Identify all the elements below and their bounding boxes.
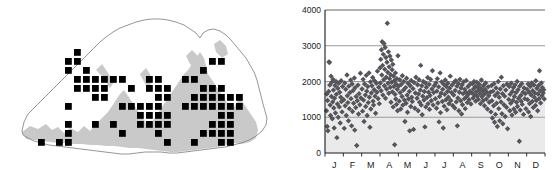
y-axis-tick-label: 1000 [302,112,321,122]
map-record-cell [209,103,216,110]
map-record-cell [164,121,171,128]
map-record-cell [155,130,162,137]
map-record-cell [200,130,207,137]
map-record-cell [227,121,234,128]
map-record-cell [182,103,189,110]
y-axis-tick-label: 2000 [302,77,321,87]
map-record-cell [155,103,162,110]
map-record-cell [200,103,207,110]
map-record-cell [227,130,234,137]
map-record-cell [65,121,72,128]
y-axis-tick-label: 4000 [302,5,321,15]
map-record-cell [119,76,126,83]
map-record-cell [200,67,207,74]
map-record-cell [227,94,234,101]
x-axis-tick-label: D [533,160,540,170]
map-record-cell [128,103,135,110]
x-axis-tick-label: O [496,160,503,170]
map-record-cell [92,76,99,83]
x-axis-tick-label: A [386,160,392,170]
map-record-cell [137,103,144,110]
map-record-cell [74,58,81,65]
map-record-cell [83,85,90,92]
x-axis-tick-label: J [442,160,447,170]
map-record-cell [38,139,45,146]
map-record-cell [101,85,108,92]
map-record-cell [209,85,216,92]
map-record-cell [218,58,225,65]
map-record-cell [110,76,117,83]
map-record-cell [191,76,198,83]
map-record-cell [218,112,225,119]
map-record-cell [137,121,144,128]
map-record-cell [155,121,162,128]
map-record-cell [164,94,171,101]
map-record-cell [92,85,99,92]
map-record-cell [101,94,108,101]
map-record-cell [191,103,198,110]
map-record-cell [218,103,225,110]
x-axis-tick-label: J [332,160,337,170]
y-axis-tick-label: 0 [316,148,321,158]
x-axis-tick-labels: JFMAMJJASOND [332,160,540,170]
map-record-cell [209,94,216,101]
x-axis-tick-label: M [367,160,375,170]
map-record-cell [65,67,72,74]
map-record-cell [218,121,225,128]
y-axis-tick-labels: 01000200030004000 [302,5,321,158]
monthly-elevation-scatter-chart: 01000200030004000 JFMAMJJASOND [280,0,560,170]
map-record-cell [74,49,81,56]
map-record-cell [146,76,153,83]
map-record-cell [65,103,72,110]
figure-container: 01000200030004000 JFMAMJJASOND [0,0,560,170]
map-record-cell [137,112,144,119]
map-record-cell [155,94,162,101]
map-record-cell [146,103,153,110]
x-axis-tick-label: S [478,160,484,170]
map-record-cell [182,76,189,83]
map-record-cell [218,139,225,146]
map-record-cell [83,67,90,74]
bhutan-distribution-map [0,0,280,170]
map-record-cell [146,112,153,119]
map-record-cell [146,85,153,92]
x-axis-tick-label: J [424,160,429,170]
map-record-cell [65,139,72,146]
map-record-cell [164,85,171,92]
map-record-cell [65,130,72,137]
map-record-cell [209,58,216,65]
map-record-cell [56,139,63,146]
map-record-cell [92,121,99,128]
map-record-cell [218,94,225,101]
map-record-cell [164,112,171,119]
map-record-cell [191,94,198,101]
x-axis-tick-label: A [459,160,465,170]
map-record-cell [146,121,153,128]
map-record-cell [200,85,207,92]
map-record-cell [227,139,234,146]
map-record-cell [119,130,126,137]
x-axis-tick-label: N [514,160,521,170]
map-record-cell [191,139,198,146]
map-record-cell [155,112,162,119]
map-record-cell [155,76,162,83]
map-record-cell [128,85,135,92]
map-record-cell [227,112,234,119]
map-record-cell [83,76,90,83]
elevation-scatter-panel: 01000200030004000 JFMAMJJASOND [280,0,560,170]
map-record-cell [200,94,207,101]
y-axis-tick-label: 3000 [302,41,321,51]
x-axis-tick-label: F [350,160,356,170]
map-record-cell [218,130,225,137]
map-record-cell [65,58,72,65]
x-axis-tick-label: M [404,160,412,170]
map-record-cell [110,121,117,128]
distribution-map-panel [0,0,280,170]
map-record-cell [92,94,99,101]
map-record-cell [209,130,216,137]
map-record-cell [74,85,81,92]
map-record-cell [218,85,225,92]
map-record-cell [209,121,216,128]
map-record-cell [74,76,81,83]
map-record-cell [236,94,243,101]
